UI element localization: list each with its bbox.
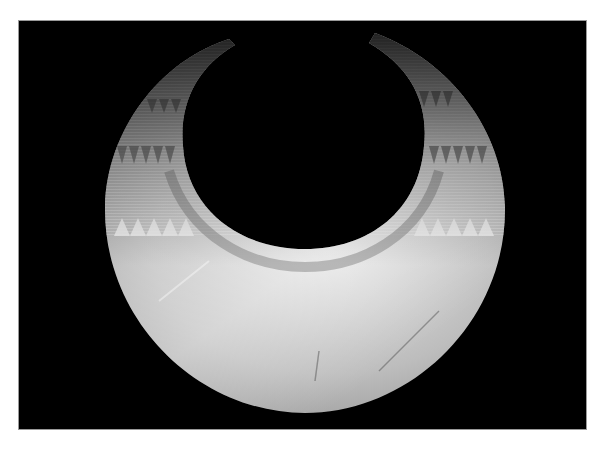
- photo-frame: [19, 21, 586, 429]
- caption-text: [20, 438, 590, 450]
- lunula-image: [19, 21, 586, 429]
